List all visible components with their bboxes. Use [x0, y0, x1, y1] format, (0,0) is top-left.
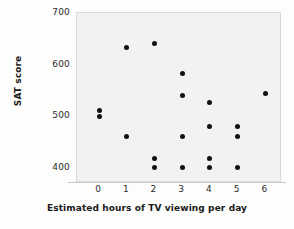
y-axis-tick-label: 400	[52, 162, 70, 172]
data-point	[263, 91, 268, 96]
data-point	[235, 124, 240, 129]
plot-area	[76, 12, 281, 182]
data-point	[152, 41, 157, 46]
y-axis-tick-label: 700	[52, 7, 70, 17]
y-axis-tick-label: 600	[52, 59, 70, 69]
data-point	[152, 165, 157, 170]
data-point	[207, 156, 212, 161]
scatter-plot-figure: 400500600700 SAT score 0123456 Estimated…	[0, 0, 294, 229]
data-point	[97, 108, 102, 113]
data-point	[207, 100, 212, 105]
data-point	[124, 134, 129, 139]
data-point	[207, 165, 212, 170]
data-point	[235, 134, 240, 139]
x-axis-title: Estimated hours of TV viewing per day	[0, 203, 294, 213]
data-point	[207, 124, 212, 129]
y-axis-tick-label: 500	[52, 110, 70, 120]
x-axis: 0123456	[0, 184, 294, 198]
data-point	[235, 165, 240, 170]
data-point	[97, 114, 102, 119]
x-axis-tick-label: 1	[123, 184, 129, 195]
y-axis-title: SAT score	[13, 36, 23, 126]
data-point	[180, 134, 185, 139]
data-point	[180, 71, 185, 76]
x-axis-tick-label: 3	[178, 184, 184, 195]
x-axis-tick-label: 2	[151, 184, 157, 195]
x-axis-tick-label: 4	[206, 184, 212, 195]
data-point	[152, 156, 157, 161]
x-axis-tick-label: 5	[234, 184, 240, 195]
x-axis-tick-label: 0	[95, 184, 101, 195]
data-point	[124, 45, 129, 50]
data-point	[180, 93, 185, 98]
data-point	[180, 165, 185, 170]
x-axis-tick-label: 6	[261, 184, 267, 195]
x-axis-line	[68, 182, 286, 183]
